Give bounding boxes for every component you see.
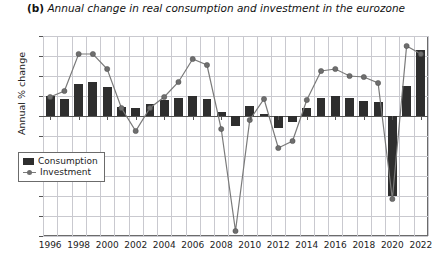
investment-marker — [105, 66, 110, 71]
x-tick-mark — [335, 116, 336, 120]
y-tick-mark — [39, 196, 43, 197]
y-axis-label: Annual % change — [16, 29, 27, 159]
investment-marker — [190, 56, 195, 61]
investment-marker — [375, 80, 380, 85]
gridline-h — [43, 236, 428, 237]
x-tick-mark — [193, 116, 194, 120]
y-tick-mark — [39, 116, 43, 117]
x-tick-mark — [136, 116, 137, 120]
investment-marker — [361, 74, 366, 79]
x-tick-mark — [50, 116, 51, 120]
investment-marker — [261, 96, 266, 101]
investment-marker — [162, 94, 167, 99]
x-tick-mark — [164, 116, 165, 120]
investment-swatch-icon — [23, 169, 36, 176]
investment-marker — [233, 228, 238, 233]
investment-marker — [333, 66, 338, 71]
investment-marker — [176, 79, 181, 84]
investment-marker — [404, 43, 409, 48]
y-tick-mark — [39, 56, 43, 57]
chart-title: (b) Annual change in real consumption an… — [0, 2, 432, 14]
chart-title-text: Annual change in real consumption and in… — [47, 2, 405, 14]
investment-marker — [147, 105, 152, 110]
x-tick-mark — [221, 116, 222, 120]
y-tick-mark — [39, 136, 43, 137]
panel-tag: (b) — [27, 2, 44, 14]
investment-marker — [219, 126, 224, 131]
investment-marker — [133, 128, 138, 133]
investment-marker — [204, 62, 209, 67]
x-tick-mark — [307, 116, 308, 120]
legend-label-investment: Investment — [40, 167, 91, 178]
investment-marker — [62, 88, 67, 93]
y-tick-mark — [39, 216, 43, 217]
investment-marker — [304, 97, 309, 102]
plot-area: 86420-2-4-6-8-10-12 19961998200020022004… — [43, 36, 428, 236]
x-tick-mark — [392, 116, 393, 120]
investment-marker — [90, 51, 95, 56]
consumption-swatch-icon — [23, 158, 34, 165]
x-tick-mark — [107, 116, 108, 120]
y-tick-mark — [39, 76, 43, 77]
x-tick-mark — [250, 116, 251, 120]
investment-line — [43, 36, 428, 236]
investment-marker — [276, 145, 281, 150]
gridline-v — [428, 36, 429, 236]
investment-marker — [390, 196, 395, 201]
investment-marker — [318, 68, 323, 73]
chart-legend: Consumption Investment — [18, 152, 105, 182]
legend-item-investment: Investment — [23, 167, 98, 178]
x-tick-mark — [79, 116, 80, 120]
investment-path — [50, 46, 421, 231]
legend-item-consumption: Consumption — [23, 156, 98, 167]
x-tick-mark — [364, 116, 365, 120]
investment-marker — [418, 51, 423, 56]
y-tick-mark — [39, 236, 43, 237]
legend-label-consumption: Consumption — [38, 156, 98, 167]
x-tick-label: 2022 — [401, 240, 432, 250]
y-tick-mark — [39, 96, 43, 97]
x-tick-mark — [278, 116, 279, 120]
y-tick-mark — [39, 36, 43, 37]
investment-marker — [76, 51, 81, 56]
investment-marker — [290, 138, 295, 143]
investment-marker — [119, 105, 124, 110]
investment-marker — [347, 73, 352, 78]
x-tick-mark — [421, 116, 422, 120]
investment-marker — [48, 94, 53, 99]
